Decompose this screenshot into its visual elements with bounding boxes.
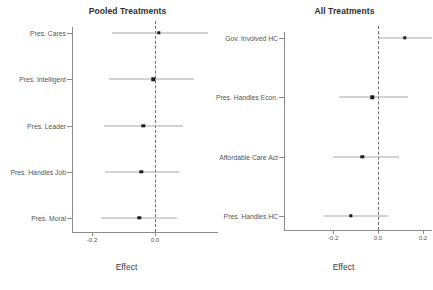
y-tick-mark	[67, 218, 72, 219]
category-label: Pres. Moral	[0, 215, 66, 222]
axis-title-right: Effect	[216, 262, 433, 272]
y-tick-mark	[279, 216, 284, 217]
estimate-point	[142, 124, 145, 127]
category-label: Pres. Handles Econ.	[216, 94, 278, 101]
x-tick-label: -0.2	[87, 236, 98, 243]
zero-reference-line	[155, 21, 156, 232]
category-label: Pres. Leader	[0, 122, 66, 129]
y-tick-mark	[279, 157, 284, 158]
estimate-point	[138, 216, 141, 219]
y-tick-mark	[67, 33, 72, 34]
estimate-point	[157, 31, 160, 34]
category-label: Pres. Cares	[0, 30, 66, 37]
estimate-point	[371, 96, 374, 99]
category-label: Pres. Handles HC	[216, 213, 278, 220]
y-axis-line	[284, 32, 285, 230]
x-tick-label: -0.2	[328, 234, 339, 241]
y-tick-mark	[67, 126, 72, 127]
x-axis-line	[284, 230, 432, 231]
category-label: Pres. Handles Job	[0, 168, 66, 175]
y-tick-mark	[279, 38, 284, 39]
category-label: Affordable Care Act	[216, 153, 278, 160]
estimate-point	[349, 214, 352, 217]
category-label: Gov. Involved HC	[216, 35, 278, 42]
x-tick-label: 0.0	[374, 234, 383, 241]
zero-reference-line	[378, 26, 379, 230]
estimate-point	[140, 170, 143, 173]
panel-all-treatments: All Treatments -0.20.00.2Gov. Involved H…	[216, 0, 433, 290]
x-axis-line	[72, 232, 218, 233]
y-axis-line	[72, 27, 73, 232]
confidence-interval-bar	[324, 216, 388, 217]
plot-area-left: -0.20.0Pres. CaresPres. IntelligentPres.…	[0, 0, 217, 290]
y-tick-mark	[67, 172, 72, 173]
confidence-interval-bar	[333, 156, 399, 157]
category-label: Pres. Intelligent	[0, 76, 66, 83]
estimate-point	[152, 78, 155, 81]
x-tick-label: 0.0	[151, 236, 160, 243]
estimate-point	[361, 155, 364, 158]
estimate-point	[403, 36, 406, 39]
figure-dot-plot-panels: Pooled Treatments -0.20.0Pres. CaresPres…	[0, 0, 433, 290]
panel-pooled-treatments: Pooled Treatments -0.20.0Pres. CaresPres…	[0, 0, 217, 290]
y-tick-mark	[67, 79, 72, 80]
x-tick-label: 0.2	[419, 234, 428, 241]
plot-area-right: -0.20.00.2Gov. Involved HCPres. Handles …	[216, 0, 433, 290]
y-tick-mark	[279, 97, 284, 98]
axis-title-left: Effect	[0, 262, 217, 272]
